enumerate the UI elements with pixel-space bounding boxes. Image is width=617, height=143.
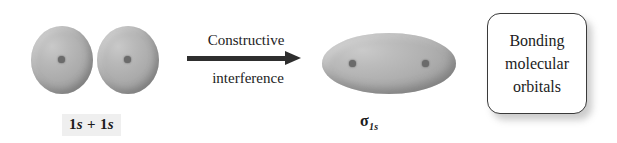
arrow-caption-bottom: interference (188, 70, 308, 86)
nucleus-left (58, 56, 65, 63)
nucleus-sigma-right (422, 60, 429, 67)
constructive-interference-arrow: Constructive interference (186, 32, 306, 88)
label-sigma-1s: σ1s (360, 112, 379, 132)
nucleus-sigma-left (349, 60, 356, 67)
label-reactant-second-subshell: s (108, 116, 114, 132)
orbital-overlap-diagram: 1s + 1s Constructive interference σ1s Bo… (0, 0, 617, 143)
molecular-orbital-sigma-1s (322, 33, 456, 94)
arrow-shaft (187, 56, 287, 61)
callout-line-2: molecular (505, 52, 569, 75)
callout-line-3: orbitals (513, 75, 561, 98)
bonding-molecular-orbitals-callout: Bonding molecular orbitals (487, 13, 587, 114)
arrow-caption-top: Constructive (186, 32, 306, 48)
label-reactant-first-shell: 1 (69, 116, 77, 132)
callout-line-1: Bonding (509, 29, 564, 52)
arrow-head-icon (285, 51, 301, 65)
label-reactant-plus: + 1 (83, 116, 108, 132)
label-reactant-orbitals: 1s + 1s (62, 114, 121, 136)
nucleus-right (124, 56, 131, 63)
sigma-symbol: σ (360, 112, 369, 129)
sigma-subscript: 1s (369, 121, 379, 132)
